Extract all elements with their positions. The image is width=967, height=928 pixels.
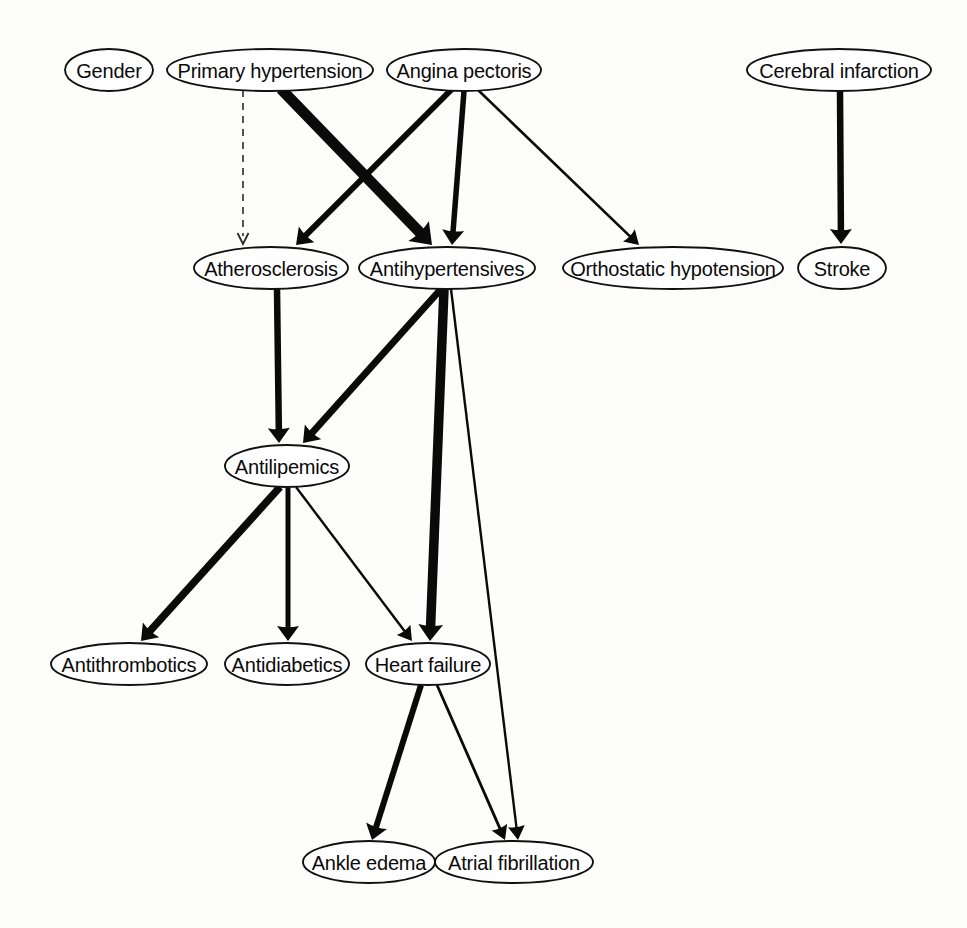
edge-shaft — [477, 89, 633, 239]
edge-antihtn-to-antilip — [303, 289, 441, 443]
node-label: Ankle edema — [312, 852, 428, 874]
node-angina[interactable]: Angina pectoris — [387, 49, 541, 91]
node-label: Atrial fibrillation — [448, 852, 580, 874]
node-label: Antithrombotics — [62, 654, 197, 676]
node-label: Heart failure — [375, 654, 481, 676]
edge-primary_htn-to-athero — [238, 90, 249, 244]
node-primary_htn[interactable]: Primary hypertension — [167, 49, 373, 91]
edge-heart_failure-to-atrial_fib — [437, 685, 507, 840]
arrow-head-icon — [442, 229, 464, 245]
node-atrial_fib[interactable]: Atrial fibrillation — [435, 841, 593, 883]
node-label: Antilipemics — [235, 456, 339, 478]
arrow-head-icon — [277, 626, 299, 641]
edge-primary_htn-to-antihtn — [281, 89, 432, 245]
edge-antihtn-to-heart_failure — [418, 289, 444, 641]
edge-shaft — [309, 289, 441, 437]
edge-antilip-to-antithrom — [141, 487, 280, 641]
node-label: Antidiabetics — [232, 654, 343, 676]
node-heart_failure[interactable]: Heart failure — [366, 643, 490, 685]
arrow-head-icon — [418, 624, 443, 641]
node-antidiab[interactable]: Antidiabetics — [225, 643, 349, 685]
arrow-head-icon — [397, 625, 412, 641]
node-antilip[interactable]: Antilipemics — [225, 445, 349, 487]
edge-angina-to-athero — [296, 89, 452, 245]
node-label: Cerebral infarction — [759, 60, 919, 82]
node-label: Orthostatic hypotension — [570, 258, 776, 280]
node-label: Antihypertensives — [370, 258, 525, 280]
edge-shaft — [375, 685, 421, 832]
arrow-head-icon — [268, 428, 290, 443]
node-cerebral_inf[interactable]: Cerebral infarction — [747, 49, 931, 91]
node-stroke[interactable]: Stroke — [798, 247, 886, 289]
edge-shaft — [281, 89, 424, 237]
causal-graph-diagram: GenderPrimary hypertensionAngina pectori… — [0, 0, 967, 928]
edge-antilip-to-heart_failure — [296, 487, 412, 641]
edge-shaft — [840, 91, 841, 235]
edge-heart_failure-to-ankle_edema — [366, 685, 421, 840]
edge-antihtn-to-atrial_fib — [451, 289, 525, 840]
edge-shaft — [451, 289, 517, 832]
node-ankle_edema[interactable]: Ankle edema — [303, 841, 435, 883]
edge-angina-to-antihtn — [442, 91, 464, 245]
node-antihtn[interactable]: Antihypertensives — [359, 247, 535, 289]
arrow-head-icon — [830, 229, 852, 244]
node-ortho_hypo[interactable]: Orthostatic hypotension — [563, 247, 783, 289]
node-label: Atherosclerosis — [204, 258, 338, 280]
node-label: Stroke — [814, 258, 871, 280]
edge-shaft — [437, 685, 502, 833]
node-label: Primary hypertension — [178, 60, 363, 82]
node-label: Angina pectoris — [397, 60, 532, 82]
edge-shaft — [277, 289, 279, 434]
edge-angina-to-ortho_hypo — [477, 89, 639, 245]
edge-cerebral_inf-to-stroke — [830, 91, 852, 244]
nodes-layer: GenderPrimary hypertensionAngina pectori… — [51, 49, 931, 883]
node-athero[interactable]: Atherosclerosis — [194, 247, 348, 289]
graph-canvas: GenderPrimary hypertensionAngina pectori… — [0, 0, 967, 928]
edge-shaft — [147, 487, 280, 635]
node-label: Gender — [76, 60, 142, 82]
edge-shaft — [453, 91, 464, 236]
edge-shaft — [302, 89, 452, 239]
node-antithrom[interactable]: Antithrombotics — [51, 643, 207, 685]
edge-shaft — [296, 487, 407, 635]
edge-athero-to-antilip — [268, 289, 290, 443]
node-gender[interactable]: Gender — [65, 49, 153, 91]
edge-antilip-to-antidiab — [277, 488, 299, 641]
edge-shaft — [430, 289, 444, 631]
